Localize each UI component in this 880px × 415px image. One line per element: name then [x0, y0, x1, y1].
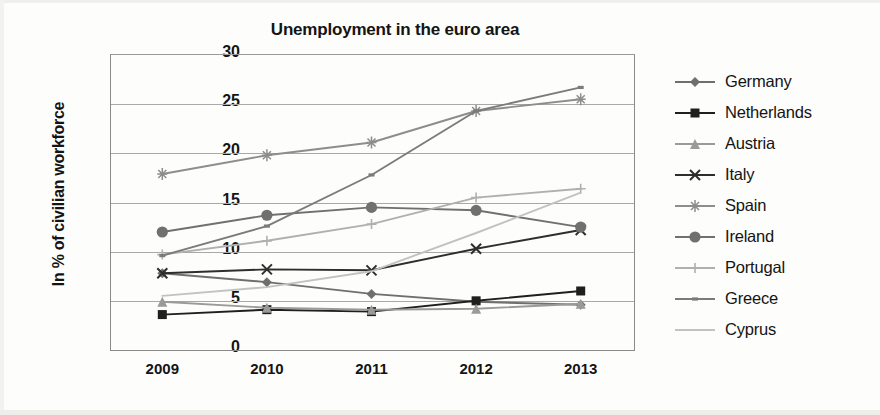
series-greece: [159, 86, 583, 257]
marker-diamond: [690, 77, 700, 87]
marker-asterisk: [690, 200, 700, 212]
legend-label: Netherlands: [718, 103, 812, 122]
legend-marker-asterisk-icon: [672, 195, 718, 217]
marker-circle: [157, 226, 168, 237]
marker-dash: [578, 86, 584, 89]
series-lines: [110, 54, 633, 349]
chart-title: Unemployment in the euro area: [195, 20, 595, 40]
legend-item-greece[interactable]: Greece: [672, 283, 872, 314]
marker-asterisk: [576, 93, 586, 105]
marker-circle: [261, 210, 272, 221]
marker-circle: [366, 202, 377, 213]
marker-plus: [471, 193, 481, 203]
marker-asterisk: [367, 137, 377, 149]
legend-label: Germany: [718, 72, 791, 91]
marker-asterisk: [157, 168, 167, 180]
legend-label: Spain: [718, 196, 766, 215]
marker-asterisk: [262, 149, 272, 161]
legend-marker-plus-icon: [672, 257, 718, 279]
marker-circle: [689, 231, 700, 242]
x-tick-label: 2010: [232, 360, 302, 377]
legend-marker-diamond-icon: [672, 71, 718, 93]
legend-label: Italy: [718, 165, 754, 184]
marker-plus: [367, 219, 377, 229]
legend-item-italy[interactable]: Italy: [672, 159, 872, 190]
legend-marker-square-icon: [672, 102, 718, 124]
legend-marker-none-icon: [672, 319, 718, 341]
x-tick-label: 2013: [546, 360, 616, 377]
marker-square: [691, 108, 700, 117]
marker-circle: [471, 205, 482, 216]
legend-label: Portugal: [718, 258, 785, 277]
scan-edge-left: [0, 0, 4, 415]
legend-marker-triangle-icon: [672, 133, 718, 155]
marker-circle: [575, 221, 586, 232]
legend-item-portugal[interactable]: Portugal: [672, 252, 872, 283]
x-tick-label: 2012: [441, 360, 511, 377]
legend-label: Austria: [718, 134, 775, 153]
legend-item-germany[interactable]: Germany: [672, 66, 872, 97]
scan-edge-bottom: [0, 410, 880, 415]
legend-marker-cross-icon: [672, 164, 718, 186]
scan-edge-top: [0, 0, 880, 3]
marker-square: [158, 310, 167, 319]
x-tick-label: 2011: [337, 360, 407, 377]
legend-label: Greece: [718, 289, 778, 308]
legend-item-ireland[interactable]: Ireland: [672, 221, 872, 252]
marker-plus: [262, 236, 272, 246]
marker-dash: [264, 224, 270, 227]
series-germany: [157, 268, 585, 309]
marker-dash: [369, 173, 375, 176]
legend-marker-dash-icon: [672, 288, 718, 310]
marker-dash: [473, 109, 479, 112]
legend-item-netherlands[interactable]: Netherlands: [672, 97, 872, 128]
legend-label: Ireland: [718, 227, 774, 246]
legend-item-austria[interactable]: Austria: [672, 128, 872, 159]
x-tick-label: 2009: [127, 360, 197, 377]
marker-dash: [159, 254, 165, 257]
legend-item-cyprus[interactable]: Cyprus: [672, 314, 872, 345]
chart-legend: GermanyNetherlandsAustriaItalySpainIrela…: [672, 66, 872, 345]
marker-dash: [692, 297, 698, 300]
legend-marker-circle-icon: [672, 226, 718, 248]
legend-label: Cyprus: [718, 320, 776, 339]
marker-diamond: [367, 289, 377, 299]
marker-plus: [690, 263, 700, 273]
series-spain: [157, 93, 585, 180]
chart-figure: Unemployment in the euro area In % of ci…: [0, 0, 880, 415]
y-axis-label: In % of civilian workforce: [50, 29, 68, 359]
marker-square: [576, 286, 585, 295]
legend-item-spain[interactable]: Spain: [672, 190, 872, 221]
